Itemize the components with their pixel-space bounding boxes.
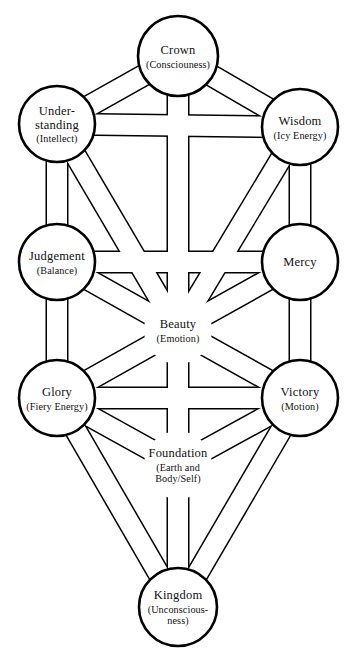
node-subtitle-beauty: (Emotion): [157, 333, 200, 345]
tree-of-life-svg: Crown(Consciouness)Under-standing(Intell…: [0, 0, 357, 658]
node-title-wisdom: Wisdom: [278, 114, 321, 128]
tree-of-life-diagram: Crown(Consciouness)Under-standing(Intell…: [0, 0, 357, 658]
node-title-foundation: Foundation: [149, 446, 208, 460]
node-subtitle-glory: (Fiery Energy): [26, 401, 87, 413]
node-subtitle-wisdom: (Icy Energy): [274, 130, 327, 142]
node-title-crown: Crown: [160, 43, 196, 57]
node-subtitle-understanding: (Intellect): [36, 133, 77, 145]
node-label-judgement: Judgement(Balance): [29, 249, 85, 277]
node-title-judgement: Judgement: [29, 249, 85, 263]
node-subtitle-foundation-line1: (Earth and: [156, 462, 200, 474]
node-title-mercy: Mercy: [283, 255, 317, 269]
node-label-understanding: Under-standing(Intellect): [35, 104, 80, 145]
node-subtitle-crown: (Consciouness): [146, 59, 210, 71]
node-label-victory: Victory(Motion): [281, 385, 320, 413]
node-title-kingdom: Kingdom: [154, 588, 203, 602]
node-subtitle-foundation-line2: Body/Self): [155, 473, 201, 485]
node-subtitle-kingdom-line1: (Unconscious-: [148, 604, 209, 616]
node-title-glory: Glory: [42, 385, 73, 399]
node-label-mercy: Mercy: [283, 255, 317, 269]
node-subtitle-victory: (Motion): [281, 401, 319, 413]
node-label-foundation: Foundation(Earth andBody/Self): [149, 446, 208, 485]
node-title-victory: Victory: [281, 385, 320, 399]
node-label-wisdom: Wisdom(Icy Energy): [274, 114, 327, 142]
node-subtitle-kingdom-line2: ness): [167, 615, 188, 627]
node-title-beauty: Beauty: [160, 317, 197, 331]
node-label-beauty: Beauty(Emotion): [157, 317, 200, 345]
node-title-understanding-line1: Under-: [39, 104, 75, 118]
node-subtitle-judgement: (Balance): [37, 265, 78, 277]
node-title-understanding-line2: standing: [35, 118, 80, 132]
